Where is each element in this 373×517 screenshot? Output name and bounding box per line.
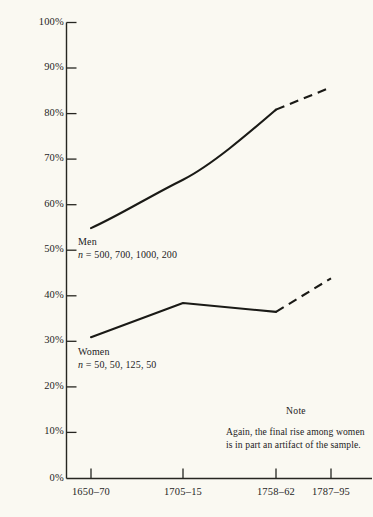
y-tick-label: 100%: [20, 17, 64, 28]
y-tick-label: 50%: [20, 244, 64, 255]
series-legend-men-name: Men: [78, 236, 177, 249]
y-tick-label: 80%: [20, 108, 64, 119]
y-tick-label: 0%: [20, 473, 64, 484]
figure-container: 100% 90% 80% 70% 60% 50% 40% 30% 20% 10%…: [0, 0, 373, 517]
y-axis-ticks: [67, 23, 77, 433]
series-line-women-dashed: [276, 278, 331, 312]
x-tick-label-1705-15: 1705–15: [164, 487, 202, 498]
y-tick-label: 90%: [20, 62, 64, 73]
y-tick-label: 20%: [20, 381, 64, 392]
series-legend-women-name: Women: [78, 346, 157, 359]
x-tick-label-1787-95: 1787–95: [312, 487, 350, 498]
x-axis-ticks: [91, 469, 331, 479]
series-legend-men: Men n = 500, 700, 1000, 200: [78, 236, 177, 262]
y-tick-label: 40%: [20, 290, 64, 301]
note-title: Note: [226, 404, 366, 418]
series-legend-women-n-values: = 50, 50, 125, 50: [83, 359, 156, 370]
x-tick-label-1758-62: 1758–62: [257, 487, 295, 498]
x-tick-label-1650-70: 1650–70: [72, 487, 110, 498]
series-line-women-solid: [91, 303, 276, 337]
series-legend-women: Women n = 50, 50, 125, 50: [78, 346, 157, 372]
y-tick-label: 60%: [20, 199, 64, 210]
note-body: Again, the final rise among women is in …: [226, 425, 366, 452]
note-block: Note Again, the final rise among women i…: [226, 404, 366, 452]
y-tick-label: 30%: [20, 335, 64, 346]
y-tick-label: 10%: [20, 426, 64, 437]
series-line-men-dashed: [276, 87, 331, 109]
y-tick-label: 70%: [20, 153, 64, 164]
series-legend-women-n: n = 50, 50, 125, 50: [78, 359, 157, 372]
series-legend-men-n-values: = 500, 700, 1000, 200: [83, 249, 177, 260]
series-legend-men-n: n = 500, 700, 1000, 200: [78, 249, 177, 262]
series-line-men-solid: [91, 110, 276, 229]
